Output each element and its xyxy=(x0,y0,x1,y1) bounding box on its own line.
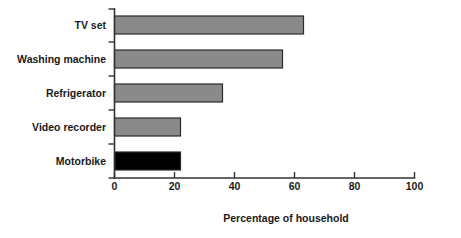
x-tick-labels: 0 20 40 60 80 100 xyxy=(112,180,424,192)
bar-motorbike xyxy=(115,152,181,170)
x-tick-label-0: 0 xyxy=(112,180,118,192)
bars-group xyxy=(115,16,304,170)
x-tick-label-60: 60 xyxy=(289,180,301,192)
category-label-video-recorder: Video recorder xyxy=(32,121,106,133)
x-tick-label-20: 20 xyxy=(169,180,181,192)
x-tick-label-100: 100 xyxy=(406,180,424,192)
x-tick-label-80: 80 xyxy=(349,180,361,192)
category-label-washing-machine: Washing machine xyxy=(17,53,106,65)
bar-refrigerator xyxy=(115,84,223,102)
x-axis-ticks xyxy=(115,172,415,178)
bar-chart: TV set Washing machine Refrigerator Vide… xyxy=(0,0,461,238)
chart-canvas: TV set Washing machine Refrigerator Vide… xyxy=(0,0,461,238)
category-labels: TV set Washing machine Refrigerator Vide… xyxy=(17,19,106,167)
bar-video-recorder xyxy=(115,118,181,136)
bar-washing-machine xyxy=(115,50,283,68)
category-label-motorbike: Motorbike xyxy=(56,155,106,167)
category-label-refrigerator: Refrigerator xyxy=(46,87,106,99)
x-axis-title: Percentage of household xyxy=(223,212,348,224)
bar-tv-set xyxy=(115,16,304,34)
y-axis-ticks xyxy=(109,9,115,178)
category-label-tv-set: TV set xyxy=(74,19,106,31)
x-tick-label-40: 40 xyxy=(229,180,241,192)
